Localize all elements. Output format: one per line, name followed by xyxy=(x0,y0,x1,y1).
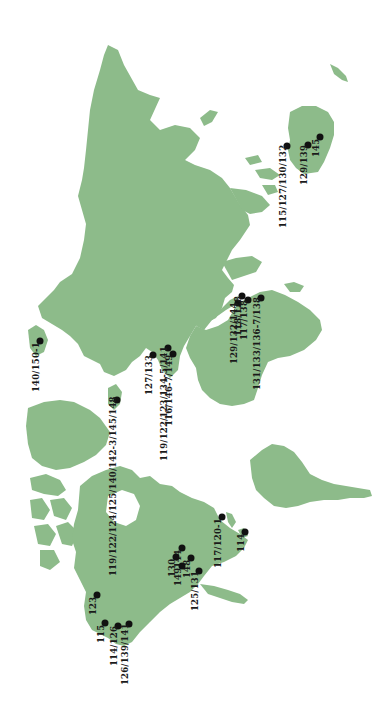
location-label: 119/122/124/125/140/142-3/145/148 xyxy=(108,396,118,576)
madagascar-landmass xyxy=(284,282,304,292)
india-landmass xyxy=(222,256,262,280)
location-label: 123 xyxy=(88,596,98,614)
location-label: 126/139/141 xyxy=(120,624,130,686)
arctic-archipelago xyxy=(30,474,78,570)
location-label: 115 xyxy=(96,624,106,642)
location-label: 117/120-1 xyxy=(213,518,223,568)
location-label: 129/139 xyxy=(299,145,309,185)
greenland-landmass xyxy=(26,400,110,470)
location-label: 116/146-7/149 xyxy=(164,354,174,425)
indonesia-islands xyxy=(245,155,280,195)
location-label: 117/138 xyxy=(239,300,249,340)
location-label: 140/150-1 xyxy=(31,342,41,392)
location-label: 114 xyxy=(236,533,246,551)
location-label: 127/133 xyxy=(144,355,154,395)
location-label: 125/131 xyxy=(190,571,200,611)
central-america-landmass xyxy=(200,584,248,604)
location-label: 114/126 xyxy=(109,626,119,666)
location-label: 145 xyxy=(311,138,321,156)
location-label: 115/127/130/132 xyxy=(278,145,288,228)
south-america-landmass xyxy=(250,444,372,508)
location-label: 149 xyxy=(173,567,183,585)
new-zealand-landmass xyxy=(330,64,348,82)
location-label: 131/133/136-7/138 xyxy=(252,297,262,390)
japan-landmass xyxy=(200,110,218,126)
